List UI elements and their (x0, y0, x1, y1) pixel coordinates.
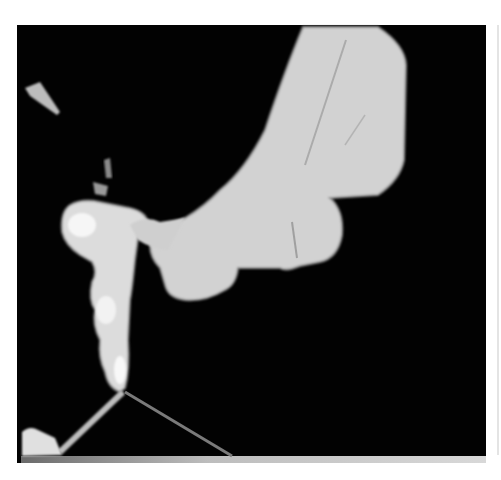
large-structure (150, 27, 406, 300)
fragment (25, 82, 60, 115)
diagonal-line-left (60, 392, 123, 452)
scan-image (0, 0, 501, 480)
bottom-left-blob (22, 428, 62, 456)
bright-spot (68, 213, 96, 237)
diagonal-line-right (125, 392, 232, 456)
bright-spot (114, 356, 126, 384)
fragment (93, 182, 108, 196)
bright-spot (96, 296, 116, 324)
fragment (104, 158, 112, 178)
